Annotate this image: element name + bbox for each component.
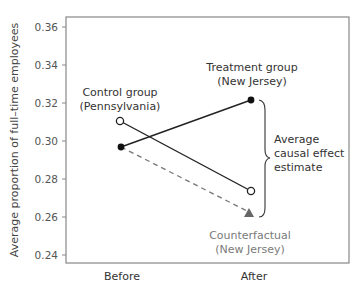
treatment-label-line2: (New Jersey) bbox=[217, 75, 287, 88]
x-label-after: After bbox=[241, 270, 268, 283]
y-axis: 0.36 0.34 0.32 0.30 0.28 0.26 0.24 bbox=[35, 21, 66, 261]
y-tick-label: 0.30 bbox=[35, 135, 58, 147]
control-label-line1: Control group bbox=[82, 86, 157, 99]
effect-label-line3: estimate bbox=[274, 161, 323, 174]
control-before-marker bbox=[116, 117, 123, 124]
x-label-before: Before bbox=[104, 270, 140, 283]
y-tick-label: 0.28 bbox=[35, 173, 58, 185]
counterfactual-marker bbox=[244, 208, 254, 217]
effect-brace bbox=[259, 100, 270, 217]
did-chart: 0.36 0.34 0.32 0.30 0.28 0.26 0.24 Avera… bbox=[0, 0, 360, 296]
y-tick-label: 0.24 bbox=[35, 249, 59, 261]
y-tick-label: 0.32 bbox=[35, 97, 58, 109]
counterfactual-label-line1: Counterfactual bbox=[209, 229, 291, 242]
y-axis-title: Average proportion of full–time employee… bbox=[8, 23, 21, 258]
effect-label-line2: causal effect bbox=[274, 147, 345, 160]
y-tick-label: 0.26 bbox=[35, 211, 59, 223]
treatment-before-marker bbox=[118, 144, 125, 151]
control-label-line2: (Pennsylvania) bbox=[80, 100, 161, 113]
counterfactual-label-line2: (New Jersey) bbox=[215, 243, 285, 256]
y-tick-label: 0.36 bbox=[35, 21, 59, 33]
y-tick-label: 0.34 bbox=[35, 59, 59, 71]
control-after-marker bbox=[247, 187, 254, 194]
treatment-label-line1: Treatment group bbox=[205, 61, 297, 74]
effect-label-line1: Average bbox=[274, 133, 319, 146]
treatment-after-marker bbox=[248, 97, 255, 104]
